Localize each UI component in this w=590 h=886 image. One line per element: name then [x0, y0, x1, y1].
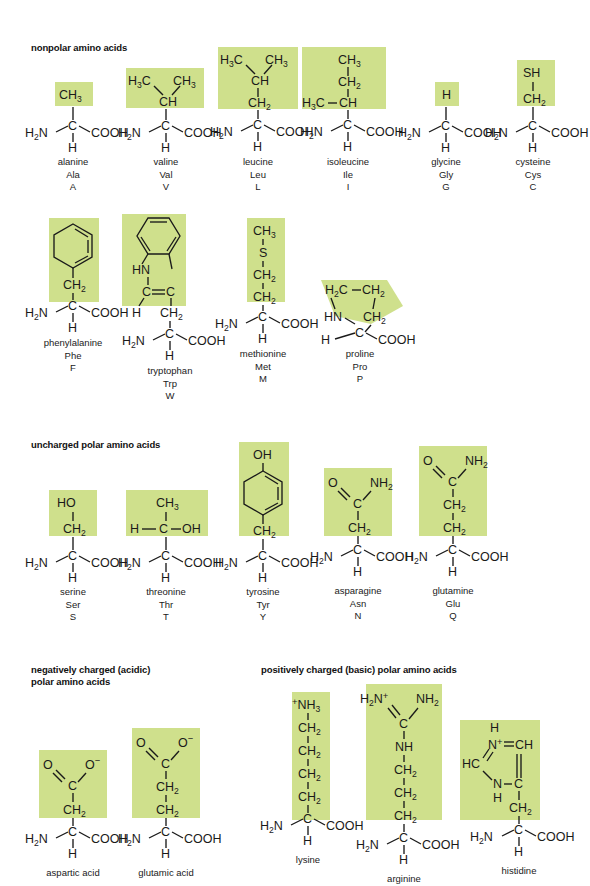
atom-label-amine: H2N — [118, 556, 141, 572]
atom-label-guanidinium-carbon: C — [399, 717, 408, 731]
atom-label-amine: H2N — [210, 125, 233, 141]
atom-label-alpha-hydrogen: H — [448, 565, 457, 579]
atom-label-c-left: C — [142, 285, 151, 299]
atom-label-oxygen: O — [328, 476, 338, 490]
atom-label-hc-ring: HC — [462, 757, 480, 771]
atom-label-carbonyl-carbon: C — [353, 497, 362, 511]
atom-label-c-right: C — [166, 285, 175, 299]
atom-label-alpha-carbon: C — [528, 119, 537, 133]
atom-label-ring-n-hydrogen: H — [493, 791, 502, 805]
atom-label-ho: HO — [57, 496, 76, 510]
atom-label-alpha-carbon: C — [514, 823, 523, 837]
atom-label-ring-c: C — [514, 777, 523, 791]
atom-label-alpha-hydrogen: H — [68, 571, 77, 585]
bond — [172, 126, 183, 132]
atom-label-amine: H2N — [118, 126, 141, 142]
atom-label-amine: H2N — [25, 556, 48, 572]
atom-label-ch-ring: CH — [515, 738, 533, 752]
amino-acid-tryptophan: HN C C H CH2 C H2N COOH H tryptophan Trp — [112, 212, 230, 330]
bond — [56, 306, 68, 312]
atom-label-amine: H2N — [470, 830, 493, 846]
atom-label-alpha-carbon: C — [161, 119, 170, 133]
atom-label-carboxyl: COOH — [537, 830, 575, 844]
amino-acid-histidine: H N+ CH HC N H C CH2 C H2N — [450, 718, 576, 864]
atom-label-alpha-carbon: C — [258, 310, 267, 324]
atom-label-alpha-hydrogen: H — [353, 565, 362, 579]
atom-label-amine: H2N — [485, 126, 508, 142]
atom-label-oh: OH — [253, 448, 272, 462]
amino-acid-threonine: CH3 H C OH C H2N COOH H threonine Thr T — [118, 488, 230, 580]
atom-label-side-hydrogen: H — [130, 522, 139, 536]
bond — [79, 832, 90, 838]
atom-label-alpha-carbon: C — [448, 543, 457, 557]
label-cysteine: cysteine Cys C — [463, 156, 590, 194]
bond — [364, 550, 375, 556]
atom-label-beta-carbon: C — [159, 522, 168, 536]
amino-acid-cysteine: SH CH2 C H2N COOH H cysteine Cys C — [485, 58, 590, 150]
atom-label-alpha-carbon: C — [161, 549, 170, 563]
atom-label-nh: NH — [395, 740, 413, 754]
atom-label-alpha-carbon: C — [161, 825, 170, 839]
bond — [79, 556, 90, 562]
atom-label-hn: HN — [132, 263, 150, 277]
section-heading-uncharged-polar: uncharged polar amino acids — [31, 439, 160, 451]
atom-label-alpha-carbon: C — [68, 825, 77, 839]
atom-label-amine: H2N — [300, 125, 323, 141]
atom-label-amine: H2N — [118, 832, 141, 848]
atom-label-amine: H2N — [398, 126, 421, 142]
atom-label-alpha-carbon: C — [343, 118, 352, 132]
atom-label-alpha-carbon: C — [355, 326, 364, 340]
bond — [354, 125, 365, 131]
atom-label-oxygen: O — [423, 454, 433, 468]
atom-label-amine: H2N — [215, 556, 238, 572]
atom-label-amine: H2N — [215, 317, 238, 333]
atom-label-carbonyl-carbon: C — [68, 779, 77, 793]
atom-label-ch: CH — [159, 95, 177, 109]
bond — [516, 126, 528, 132]
bond — [269, 317, 280, 323]
bond — [539, 126, 550, 132]
bond — [452, 126, 463, 132]
atom-label-oh: OH — [182, 522, 201, 536]
amino-acid-proline: H2C CH2 HN CH2 C H COOH proline Pro P — [305, 272, 435, 350]
bond — [56, 556, 68, 562]
atom-label-alpha-carbon: C — [68, 549, 77, 563]
atom-label-amine: H2N — [25, 126, 48, 142]
bond — [246, 317, 258, 323]
atom-label-amine: H2N — [310, 550, 333, 566]
atom-label-alpha-carbon: C — [165, 327, 174, 341]
amino-acid-glutamic-acid: O C O− CH2 CH2 C H2N COOH H glutamic aci… — [118, 726, 232, 862]
atom-label-oxygen: O — [43, 758, 53, 772]
bond — [502, 830, 514, 836]
atom-label-ch2: CH2 — [160, 306, 183, 322]
bond — [149, 832, 161, 838]
atom-label-ring-nh-hydrogen: H — [490, 721, 499, 735]
atom-label-alpha-carbon: C — [258, 549, 267, 563]
bond — [436, 550, 448, 556]
atom-label-carbonyl-carbon: C — [161, 757, 170, 771]
atom-label-alpha-hydrogen: H — [399, 853, 408, 867]
atom-label-carboxyl: COOH — [188, 334, 226, 348]
atom-label-alpha-carbon: C — [399, 831, 408, 845]
atom-label-alpha-hydrogen: H — [258, 571, 267, 585]
atom-label-ring-hydrogen: H — [132, 306, 141, 320]
section-heading-nonpolar: nonpolar amino acids — [31, 42, 127, 54]
atom-label-alpha-carbon: C — [68, 119, 77, 133]
atom-label-alpha-hydrogen: H — [68, 847, 77, 861]
label-glutamine: glutamine Glu Q — [383, 585, 523, 623]
atom-label-alpha-carbon: C — [303, 812, 312, 826]
bond — [149, 126, 161, 132]
label-histidine: histidine — [449, 865, 589, 878]
atom-label-ch: CH — [251, 74, 269, 88]
bond — [241, 125, 253, 131]
label-proline: proline Pro P — [290, 348, 430, 386]
atom-label-alpha-hydrogen: H — [253, 140, 262, 154]
atom-label-sh: SH — [523, 66, 540, 80]
bond — [365, 325, 371, 332]
bond — [341, 550, 353, 556]
atom-label-amine: H2N — [260, 819, 283, 835]
atom-label-alpha-hydrogen: H — [68, 321, 77, 335]
bond — [153, 334, 165, 340]
atom-label-alpha-carbon: C — [441, 119, 450, 133]
